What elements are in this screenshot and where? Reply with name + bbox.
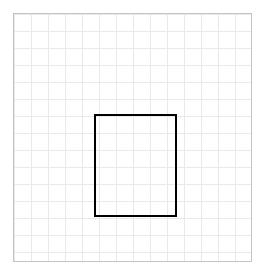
drawing-canvas bbox=[0, 0, 267, 278]
graph-paper-grid bbox=[13, 13, 252, 262]
